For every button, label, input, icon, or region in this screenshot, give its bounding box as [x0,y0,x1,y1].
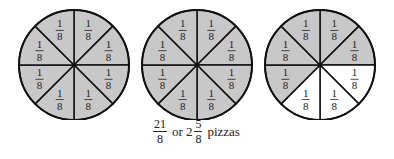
svg-text:1: 1 [160,38,166,50]
denominator: 8 [157,132,163,145]
pizza-1: 1818181818181818 [19,10,129,120]
pizza-diagram: 1818181818181818181818181818181818181818… [0,0,394,120]
svg-text:1: 1 [283,38,289,50]
svg-text:8: 8 [180,30,186,42]
svg-text:1: 1 [352,66,358,78]
svg-text:8: 8 [37,79,43,91]
svg-text:1: 1 [332,87,338,99]
svg-text:1: 1 [209,17,215,29]
caption: 21 8 or 2 5 8 pizzas [0,118,394,145]
svg-text:8: 8 [352,79,358,91]
svg-text:8: 8 [86,100,92,112]
svg-text:1: 1 [229,38,235,50]
pizza-3: 1818181818181818 [265,10,375,120]
svg-text:8: 8 [160,51,166,63]
pizza-2: 1818181818181818 [142,10,252,120]
svg-text:1: 1 [303,87,309,99]
svg-text:1: 1 [106,38,112,50]
svg-text:8: 8 [283,79,289,91]
svg-text:1: 1 [283,66,289,78]
svg-text:1: 1 [352,38,358,50]
svg-text:1: 1 [180,17,186,29]
svg-text:8: 8 [180,100,186,112]
svg-text:1: 1 [106,66,112,78]
svg-text:1: 1 [160,66,166,78]
svg-text:1: 1 [332,17,338,29]
svg-text:8: 8 [86,30,92,42]
improper-fraction: 21 8 [153,118,167,145]
svg-text:8: 8 [57,100,63,112]
svg-text:1: 1 [229,66,235,78]
svg-text:8: 8 [209,30,215,42]
svg-text:8: 8 [303,30,309,42]
unit-text: pizzas [207,124,239,140]
svg-text:8: 8 [106,51,112,63]
numerator: 5 [194,118,202,132]
svg-text:1: 1 [86,17,92,29]
svg-text:8: 8 [332,30,338,42]
svg-text:8: 8 [303,100,309,112]
svg-text:8: 8 [283,51,289,63]
svg-text:8: 8 [229,51,235,63]
svg-text:8: 8 [209,100,215,112]
svg-text:8: 8 [229,79,235,91]
svg-text:1: 1 [303,17,309,29]
svg-text:1: 1 [37,38,43,50]
mixed-fraction: 5 8 [194,118,202,145]
svg-text:1: 1 [180,87,186,99]
svg-text:1: 1 [57,87,63,99]
svg-text:8: 8 [160,79,166,91]
svg-text:8: 8 [37,51,43,63]
svg-text:1: 1 [57,17,63,29]
denominator: 8 [195,132,201,145]
svg-text:1: 1 [86,87,92,99]
or-text: or [172,124,183,140]
svg-text:8: 8 [106,79,112,91]
whole-number: 2 [186,124,193,140]
svg-text:1: 1 [209,87,215,99]
numerator: 21 [153,118,167,132]
svg-text:8: 8 [332,100,338,112]
svg-text:8: 8 [57,30,63,42]
svg-text:1: 1 [37,66,43,78]
svg-text:8: 8 [352,51,358,63]
